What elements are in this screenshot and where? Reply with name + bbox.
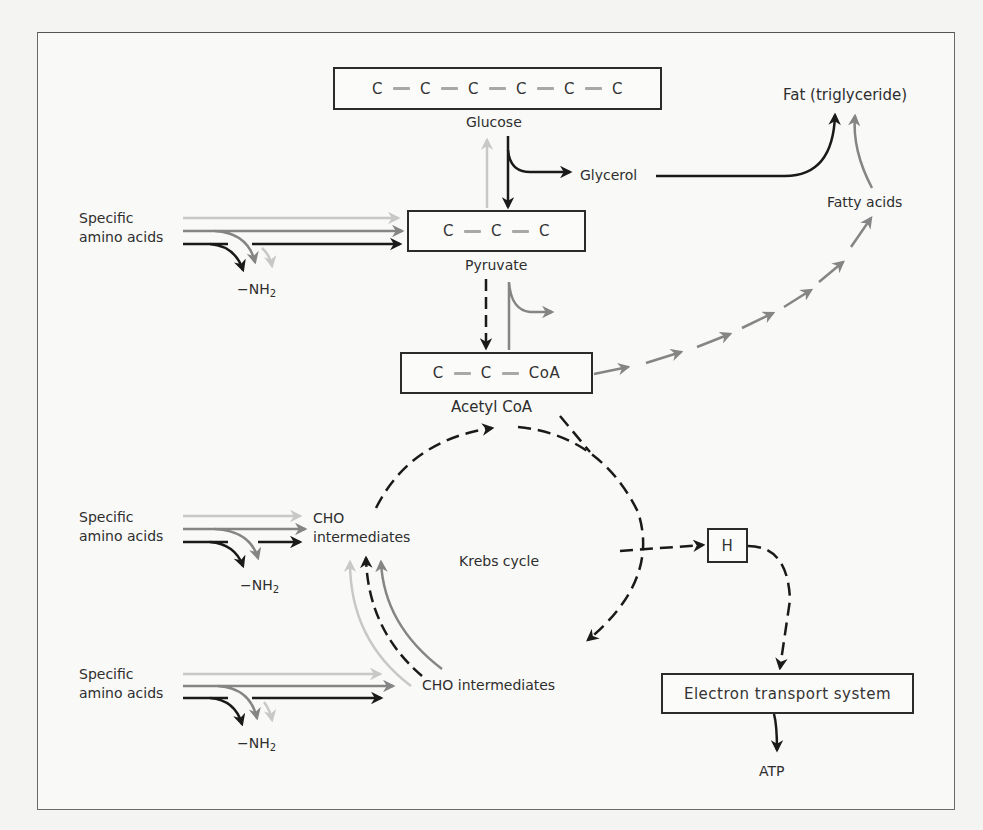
cho-intermediates-upper-label: CHO intermediates [313,509,410,547]
amino-acids-3-label: Specific amino acids [79,665,163,703]
pyruvate-box: C C C [407,210,586,252]
glucose-to-pyruvate-arrow [508,136,570,207]
hydrogen-box: H [707,528,748,563]
atp-label: ATP [759,763,784,780]
glycerol-to-fat-arrow [656,115,835,176]
electron-transport-box: Electron transport system [661,673,914,714]
bond-icon [585,87,602,90]
nh-subscript: 2 [273,584,279,595]
cho-intermediates-lower-label: CHO intermediates [422,677,555,694]
bond-icon [393,87,410,90]
amino-line1: Specific [79,508,163,527]
deamination-3-label: −NH2 [237,735,276,756]
bond-icon [489,87,506,90]
nh-text: −NH [240,577,273,593]
carbon-atom: C [420,80,431,98]
fatty-acids-label: Fatty acids [827,194,902,211]
pyruvate-label: Pyruvate [465,257,527,274]
amino-line1: Specific [79,665,163,684]
deamination-1-label: −NH2 [237,281,276,302]
amino-acids-2-arrows [183,516,305,566]
amino-line1: Specific [79,209,163,228]
acetyl-coa-chain: C C CoA [433,364,560,382]
carbon-atom: C [612,80,623,98]
h-to-ets-arrow [748,546,790,668]
nh-text: −NH [237,735,270,751]
coenzyme-a: CoA [529,364,560,382]
krebs-cycle-label: Krebs cycle [459,553,539,570]
nh-subscript: 2 [270,742,276,753]
glucose-chain: C C C C C C [372,80,623,98]
acetyl-coa-box: C C CoA [400,352,593,394]
glycerol-label: Glycerol [580,167,637,184]
bond-icon [502,372,519,375]
pyruvate-chain: C C C [443,222,550,240]
fat-label: Fat (triglyceride) [783,87,907,104]
amino-acids-2-label: Specific amino acids [79,508,163,546]
carbon-atom: C [372,80,383,98]
bond-icon [454,372,471,375]
carbon-atom: C [481,364,492,382]
fatty-acids-to-fat-arrow [855,116,872,188]
acetyl-coa-label: Acetyl CoA [451,399,532,416]
krebs-to-h-arrow [620,545,703,551]
amino-acids-1-arrows [183,218,402,270]
glucose-box: C C C C C C [333,67,662,110]
carbon-atom: C [491,222,502,240]
krebs-cycle-loop [376,416,643,640]
bond-icon [441,87,458,90]
nh-text: −NH [237,281,270,297]
glucose-label: Glucose [466,114,522,131]
cho-lower-to-upper-arrows [350,558,442,686]
amino-acids-1-label: Specific amino acids [79,209,163,247]
ets-to-atp-arrow [774,714,777,750]
carbon-atom: C [564,80,575,98]
cho-line2: intermediates [313,528,410,547]
carbon-atom: C [443,222,454,240]
carbon-atom: C [433,364,444,382]
carbon-atom: C [516,80,527,98]
acetylcoa-to-fatty-acids-arrows [594,218,871,374]
deamination-2-label: −NH2 [240,577,279,598]
cho-line1: CHO [313,509,410,528]
carbon-atom: C [539,222,550,240]
bond-icon [537,87,554,90]
bond-icon [512,230,529,233]
carbon-atom: C [468,80,479,98]
bond-icon [464,230,481,233]
amino-acids-3-arrows [183,674,393,724]
nh-subscript: 2 [270,288,276,299]
pyruvate-branch-arrow [509,282,552,350]
amino-line2: amino acids [79,527,163,546]
ets-label: Electron transport system [684,685,891,703]
hydrogen-label: H [722,537,734,555]
amino-line2: amino acids [79,228,163,247]
amino-line2: amino acids [79,684,163,703]
